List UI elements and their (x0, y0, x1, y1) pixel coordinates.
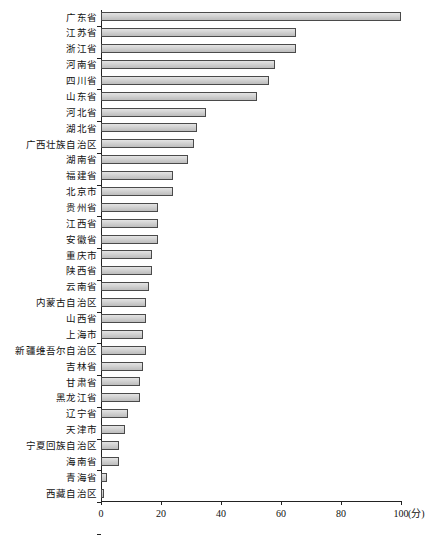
y-axis-category-label: 安徽省 (0, 235, 97, 245)
y-axis-category-label: 青海省 (0, 473, 97, 483)
y-axis-category-label: 甘肃省 (0, 378, 97, 388)
y-axis-category-label: 湖南省 (0, 155, 97, 165)
bar-row (101, 216, 445, 232)
y-axis-category-label: 江西省 (0, 219, 97, 229)
bar (101, 187, 173, 196)
bar-row (101, 105, 445, 121)
y-axis-category-label: 新疆维吾尔自治区 (0, 346, 97, 356)
bar-row (101, 486, 445, 502)
y-axis-category-label: 贵州省 (0, 203, 97, 213)
x-axis-tick (101, 501, 102, 505)
y-axis-category-label: 宁夏回族自治区 (0, 441, 97, 451)
x-axis-tick-label: 0 (81, 508, 121, 519)
bar-row (101, 169, 445, 185)
bar (101, 250, 152, 259)
bar-chart: 广东省江苏省浙江省河南省四川省山东省河北省湖北省广西壮族自治区湖南省福建省北京市… (0, 0, 445, 538)
plot-area (101, 10, 445, 502)
y-axis-category-label: 黑龙江省 (0, 393, 97, 403)
y-axis-category-label: 四川省 (0, 76, 97, 86)
y-axis-category-labels: 广东省江苏省浙江省河南省四川省山东省河北省湖北省广西壮族自治区湖南省福建省北京市… (0, 10, 97, 502)
bar (101, 330, 143, 339)
bar (101, 346, 146, 355)
bar-row (101, 58, 445, 74)
bar-row (101, 343, 445, 359)
y-axis-category-label: 江苏省 (0, 28, 97, 38)
y-axis-category-label: 福建省 (0, 171, 97, 181)
bar (101, 203, 158, 212)
y-axis-category-label: 湖北省 (0, 124, 97, 134)
y-axis-category-label: 云南省 (0, 282, 97, 292)
bar-row (101, 10, 445, 26)
bar-row (101, 391, 445, 407)
bar (101, 171, 173, 180)
bar (101, 155, 188, 164)
bar-row (101, 153, 445, 169)
bar (101, 139, 194, 148)
y-axis-category-label: 吉林省 (0, 362, 97, 372)
y-axis-category-label: 北京市 (0, 187, 97, 197)
y-axis-category-label: 西藏自治区 (0, 489, 97, 499)
bar (101, 441, 119, 450)
bar (101, 457, 119, 466)
y-axis-tick (97, 534, 101, 535)
y-axis-category-label: 河北省 (0, 108, 97, 118)
bar (101, 123, 197, 132)
bar (101, 298, 146, 307)
bar-row (101, 327, 445, 343)
bar (101, 409, 128, 418)
y-axis-category-label: 河南省 (0, 60, 97, 70)
bar-row (101, 232, 445, 248)
y-axis-category-label: 上海市 (0, 330, 97, 340)
y-axis-category-label: 广西壮族自治区 (0, 140, 97, 150)
x-axis-tick-label: 20 (141, 508, 181, 519)
bar (101, 314, 146, 323)
bar (101, 44, 296, 53)
bar-row (101, 407, 445, 423)
bar-rows (101, 10, 445, 502)
x-axis-tick (281, 501, 282, 505)
x-axis-tick (401, 501, 402, 505)
bar-row (101, 375, 445, 391)
bar (101, 12, 401, 21)
bar (101, 393, 140, 402)
bar-row (101, 42, 445, 58)
x-axis-tick (161, 501, 162, 505)
y-axis-category-label: 浙江省 (0, 44, 97, 54)
y-axis-category-label: 山东省 (0, 92, 97, 102)
bar (101, 219, 158, 228)
bar (101, 425, 125, 434)
bar (101, 362, 143, 371)
bar (101, 76, 269, 85)
bar (101, 108, 206, 117)
y-axis-category-label: 内蒙古自治区 (0, 298, 97, 308)
bar-row (101, 248, 445, 264)
bar-row (101, 470, 445, 486)
y-axis-category-label: 山西省 (0, 314, 97, 324)
bar (101, 60, 275, 69)
y-axis-category-label: 海南省 (0, 457, 97, 467)
bar (101, 377, 140, 386)
bar (101, 266, 152, 275)
bar-row (101, 264, 445, 280)
bar-row (101, 137, 445, 153)
y-axis-category-label: 辽宁省 (0, 409, 97, 419)
y-axis-category-label: 重庆市 (0, 251, 97, 261)
x-axis-tick (221, 501, 222, 505)
bar (101, 282, 149, 291)
bar-row (101, 185, 445, 201)
bar-row (101, 89, 445, 105)
bar-row (101, 312, 445, 328)
x-axis-tick-label: 80 (321, 508, 361, 519)
bar (101, 489, 104, 498)
x-axis-unit-label: (分) (408, 508, 425, 519)
bar-row (101, 200, 445, 216)
bar (101, 92, 257, 101)
bar-row (101, 121, 445, 137)
bar-row (101, 26, 445, 42)
x-axis-tick (341, 501, 342, 505)
bar-row (101, 73, 445, 89)
y-axis-category-label: 天津市 (0, 425, 97, 435)
bar-row (101, 280, 445, 296)
y-axis-category-label: 广东省 (0, 13, 97, 23)
x-axis-tick-label: 40 (201, 508, 241, 519)
